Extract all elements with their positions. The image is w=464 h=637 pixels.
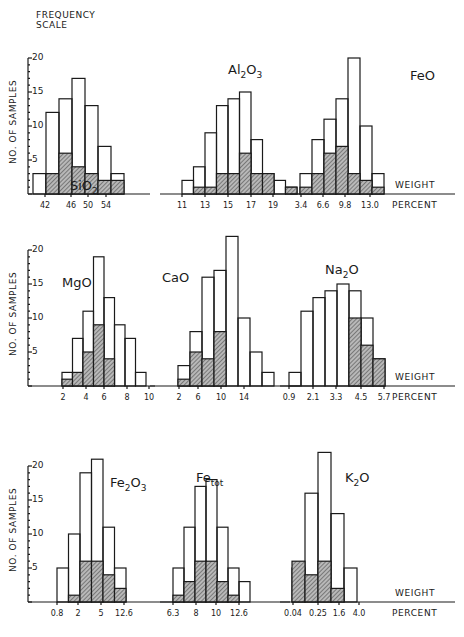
x-tick-label: 2	[60, 393, 65, 402]
x-tick-label: 12.6	[115, 609, 133, 618]
panel-title-na2o: Na2O	[325, 262, 359, 280]
x-tick-label: 15	[223, 201, 233, 210]
x-tick-label: 10	[216, 393, 226, 402]
x-tick-label: 2	[176, 393, 181, 402]
x-tick-label: 0.04	[284, 609, 302, 618]
y-tick-label: 10	[32, 528, 43, 538]
y-axis-label: NO. OF SAMPLES	[8, 272, 18, 356]
x-tick-label: 42	[40, 201, 50, 210]
x-tick-label: 8	[193, 609, 198, 618]
x-tick-label: 0.25	[309, 609, 327, 618]
panel-title-feo: FeO	[410, 68, 435, 83]
panel-title-mgo: MgO	[62, 275, 92, 290]
y-tick-label: 5	[32, 346, 38, 356]
x-tick-label: 10	[211, 609, 221, 618]
x-tick-label: 2	[75, 609, 80, 618]
y-tick-label: 15	[32, 278, 43, 288]
x-tick-label: 4.0	[353, 609, 366, 618]
x-tick-label: 4	[83, 393, 88, 402]
panel-title-k2o: K2O	[345, 470, 370, 488]
x-axis-label-weight: WEIGHT	[395, 372, 435, 382]
y-tick-label: 5	[32, 562, 38, 572]
frequency-label-line2: SCALE	[36, 20, 95, 30]
y-tick-label: 20	[32, 460, 43, 470]
x-tick-label: 0.9	[283, 393, 296, 402]
x-tick-label: 50	[83, 201, 93, 210]
x-tick-label: 14	[239, 393, 249, 402]
histogram-subset-k2o	[292, 561, 344, 602]
y-tick-label: 15	[32, 86, 43, 96]
x-tick-label: 1.6	[333, 609, 346, 618]
x-tick-label: 8	[124, 393, 129, 402]
x-tick-label: 12.6	[230, 609, 248, 618]
panel-title-fe2o3: Fe2O3	[110, 475, 146, 493]
y-tick-label: 20	[32, 244, 43, 254]
x-tick-label: 54	[101, 201, 111, 210]
x-tick-label: 5.7	[378, 393, 391, 402]
histogram-subset-mgo	[62, 325, 115, 386]
panel-title-al2o3: Al2O3	[228, 62, 262, 80]
x-axis-label-weight: WEIGHT	[395, 180, 435, 190]
x-tick-label: 19	[268, 201, 278, 210]
x-axis-label-percent: PERCENT	[392, 608, 437, 618]
x-tick-label: 11	[177, 201, 187, 210]
y-tick-label: 10	[32, 312, 43, 322]
x-tick-label: 3.4	[295, 201, 308, 210]
histogram-subset-fe2o3	[69, 561, 127, 602]
x-tick-label: 3.3	[330, 393, 343, 402]
panel-title-cao: CaO	[162, 270, 189, 285]
x-tick-label: 5	[98, 609, 103, 618]
panel-title-sio2: SiO2	[70, 178, 98, 196]
panel-title-fetot: Fetot	[196, 470, 223, 488]
x-axis-label-percent: PERCENT	[392, 200, 437, 210]
x-tick-label: 6	[195, 393, 200, 402]
y-tick-label: 5	[32, 154, 38, 164]
x-tick-label: 6.3	[167, 609, 180, 618]
x-tick-label: 6.6	[317, 201, 330, 210]
y-axis-label: NO. OF SAMPLES	[8, 488, 18, 572]
x-tick-label: 6	[101, 393, 106, 402]
x-tick-label: 2.1	[307, 393, 320, 402]
x-tick-label: 9.8	[339, 201, 352, 210]
x-tick-label: 4.5	[355, 393, 368, 402]
frequency-scale-label: FREQUENCY SCALE	[36, 10, 95, 30]
x-tick-label: 13.0	[361, 201, 379, 210]
histogram-subset-al2o3	[194, 153, 298, 194]
x-tick-label: 10	[144, 393, 154, 402]
frequency-label-line1: FREQUENCY	[36, 10, 95, 20]
x-tick-label: 13	[200, 201, 210, 210]
histogram-subset-fetot	[173, 561, 239, 602]
histogram-subset-feo	[300, 146, 384, 194]
x-tick-label: 17	[246, 201, 256, 210]
y-tick-label: 10	[32, 120, 43, 130]
y-axis-label: NO. OF SAMPLES	[8, 80, 18, 164]
y-tick-label: 15	[32, 494, 43, 504]
histogram-figure	[0, 0, 464, 637]
x-axis-label-percent: PERCENT	[392, 392, 437, 402]
x-tick-label: 46	[66, 201, 76, 210]
y-tick-label: 20	[32, 52, 43, 62]
histogram-subset-na2o	[349, 318, 385, 386]
x-tick-label: 0.8	[51, 609, 64, 618]
x-axis-label-weight: WEIGHT	[395, 588, 435, 598]
